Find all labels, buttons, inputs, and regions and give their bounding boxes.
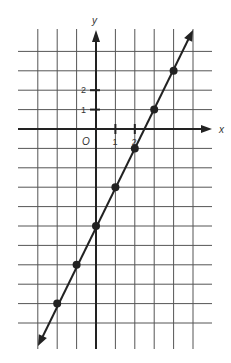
- data-point: [92, 222, 100, 230]
- data-point: [131, 144, 139, 152]
- y-axis-arrow-icon: [92, 30, 100, 42]
- y-axis-label: y: [91, 15, 98, 26]
- coordinate-plane: 1212 x y O: [0, 0, 231, 363]
- data-point: [150, 106, 158, 114]
- y-tick-label: 1: [81, 105, 86, 115]
- x-axis-arrow-icon: [201, 125, 212, 133]
- data-point: [73, 261, 81, 269]
- data-point: [53, 300, 61, 308]
- y-tick-label: 2: [81, 85, 86, 95]
- x-tick-label: 1: [112, 137, 117, 147]
- data-point: [111, 183, 119, 191]
- x-axis-label: x: [218, 124, 225, 135]
- origin-label: O: [82, 136, 90, 147]
- data-point: [170, 67, 178, 75]
